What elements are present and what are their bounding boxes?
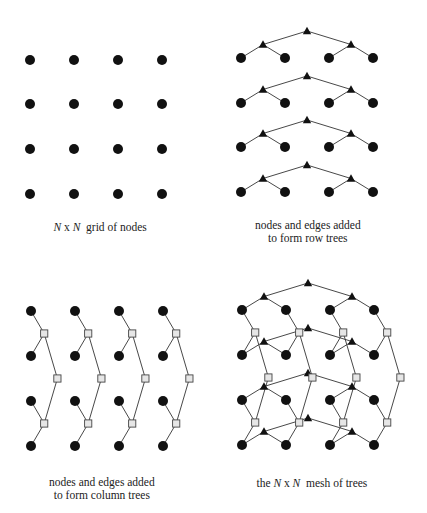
column-tree-node-square-icon <box>85 330 92 337</box>
leaf-node-icon <box>324 98 334 108</box>
column-tree-node-square-icon <box>384 329 391 336</box>
leaf-node-icon <box>70 396 80 406</box>
row-tree-node-triangle-icon <box>303 161 311 168</box>
leaf-node-icon <box>281 305 291 315</box>
leaf-node-icon <box>113 99 123 109</box>
leaf-node-icon <box>70 306 80 316</box>
column-tree-node-square-icon <box>340 329 347 336</box>
leaf-node-icon <box>69 55 79 65</box>
leaf-node-icon <box>237 395 247 405</box>
caption-row-trees: nodes and edges addedto form row trees <box>255 219 361 245</box>
leaf-node-icon <box>281 440 291 450</box>
edge <box>88 334 101 379</box>
column-tree-node-square-icon <box>173 330 180 337</box>
leaf-node-icon <box>113 189 123 199</box>
leaf-node-icon <box>26 396 36 406</box>
leaf-node-icon <box>369 395 379 405</box>
edge <box>132 334 145 379</box>
column-tree-node-square-icon <box>129 420 136 427</box>
leaf-node-icon <box>25 55 35 65</box>
column-tree-node-square-icon <box>296 329 303 336</box>
edge <box>132 379 145 424</box>
caption-line: to form row trees <box>255 232 361 245</box>
leaf-node-icon <box>114 441 124 451</box>
leaf-node-icon <box>325 350 335 360</box>
leaf-node-icon <box>158 396 168 406</box>
leaf-node-icon <box>158 306 168 316</box>
caption-line: nodes and edges added <box>49 476 155 489</box>
nodes <box>237 279 404 450</box>
edge <box>176 334 189 379</box>
leaf-node-icon <box>325 440 335 450</box>
row-tree-node-triangle-icon <box>303 116 311 123</box>
row-tree-node-triangle-icon <box>304 414 312 421</box>
row-tree-node-triangle-icon <box>304 324 312 331</box>
caption-mesh-of-trees: the N x N mesh of trees <box>257 477 368 490</box>
leaf-node-icon <box>69 144 79 154</box>
edge <box>263 165 307 179</box>
leaf-node-icon <box>113 55 123 65</box>
edge <box>299 378 312 423</box>
leaf-node-icon <box>237 350 247 360</box>
nodes <box>236 27 378 197</box>
leaf-node-icon <box>70 351 80 361</box>
column-tree-node-square-icon <box>41 330 48 337</box>
leaf-node-icon <box>369 440 379 450</box>
leaf-node-icon <box>325 305 335 315</box>
caption-grid: N x N grid of nodes <box>54 221 147 234</box>
leaf-node-icon <box>236 142 246 152</box>
edge <box>308 283 352 297</box>
leaf-node-icon <box>237 440 247 450</box>
edge <box>264 283 308 297</box>
leaf-node-icon <box>157 144 167 154</box>
column-tree-node-square-icon <box>340 419 347 426</box>
leaf-node-icon <box>280 142 290 152</box>
panel-mesh-of-trees <box>237 279 404 450</box>
leaf-node-icon <box>324 142 334 152</box>
panel-column-trees <box>26 306 193 451</box>
leaf-node-icon <box>157 55 167 65</box>
column-tree-node-square-icon <box>98 375 105 382</box>
row-tree-node-triangle-icon <box>303 72 311 79</box>
leaf-node-icon <box>236 53 246 63</box>
column-tree-node-square-icon <box>41 420 48 427</box>
leaf-node-icon <box>368 53 378 63</box>
leaf-node-icon <box>114 306 124 316</box>
edge <box>387 378 400 423</box>
edge <box>263 120 307 134</box>
edge <box>387 333 400 378</box>
edge <box>255 378 268 423</box>
edge <box>343 333 356 378</box>
column-tree-node-square-icon <box>252 329 259 336</box>
leaf-node-icon <box>69 99 79 109</box>
leaf-node-icon <box>324 187 334 197</box>
column-tree-node-square-icon <box>142 375 149 382</box>
edge <box>44 379 57 424</box>
leaf-node-icon <box>237 305 247 315</box>
row-tree-node-triangle-icon <box>303 27 311 34</box>
leaf-node-icon <box>25 99 35 109</box>
leaf-node-icon <box>113 144 123 154</box>
column-tree-node-square-icon <box>54 375 61 382</box>
edge <box>255 333 268 378</box>
leaf-node-icon <box>281 350 291 360</box>
leaf-node-icon <box>158 351 168 361</box>
edge <box>44 334 57 379</box>
leaf-node-icon <box>369 350 379 360</box>
column-tree-node-square-icon <box>85 420 92 427</box>
edge <box>176 379 189 424</box>
leaf-node-icon <box>280 187 290 197</box>
nodes <box>25 55 167 199</box>
leaf-node-icon <box>325 395 335 405</box>
mesh-of-trees-diagram <box>0 0 427 513</box>
column-tree-node-square-icon <box>173 420 180 427</box>
edge <box>299 333 312 378</box>
leaf-node-icon <box>280 53 290 63</box>
edge <box>307 76 351 90</box>
leaf-node-icon <box>369 305 379 315</box>
column-tree-node-square-icon <box>353 374 360 381</box>
leaf-node-icon <box>26 441 36 451</box>
column-tree-node-square-icon <box>265 374 272 381</box>
panel-grid <box>25 55 167 199</box>
edge <box>307 31 351 45</box>
